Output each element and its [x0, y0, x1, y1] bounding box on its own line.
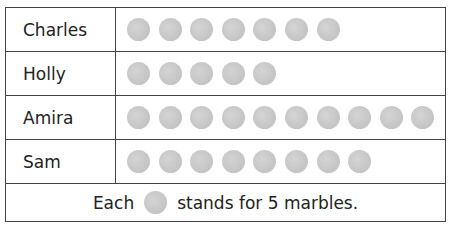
table-row: Amira — [6, 96, 445, 140]
table-row: Holly — [6, 52, 445, 96]
marble-icon — [317, 18, 340, 41]
table-row: Sam — [6, 140, 445, 184]
marble-icon — [285, 106, 308, 129]
marble-icon — [127, 62, 150, 85]
marble-icon — [159, 18, 182, 41]
row-label: Sam — [6, 140, 116, 183]
marble-icon — [317, 150, 340, 173]
marble-icon — [159, 150, 182, 173]
marble-icon — [222, 62, 245, 85]
key-suffix: stands for 5 marbles. — [177, 193, 358, 213]
marble-icon — [222, 150, 245, 173]
marble-icon — [380, 106, 403, 129]
key-row: Each stands for 5 marbles. — [6, 184, 445, 221]
symbol-cell — [116, 52, 445, 95]
marble-icon — [253, 106, 276, 129]
marble-icon — [285, 18, 308, 41]
marble-icon — [127, 18, 150, 41]
marble-icon — [285, 150, 308, 173]
marble-icon — [222, 106, 245, 129]
marble-icon — [159, 62, 182, 85]
symbol-cell — [116, 140, 445, 183]
marble-icon — [190, 18, 213, 41]
marble-icon — [222, 18, 245, 41]
marble-icon — [317, 106, 340, 129]
row-label: Amira — [6, 96, 116, 139]
marble-icon — [127, 150, 150, 173]
marble-icon — [411, 106, 434, 129]
marble-icon — [159, 106, 182, 129]
marble-icon — [144, 191, 167, 214]
table-row: Charles — [6, 8, 445, 52]
marble-icon — [348, 150, 371, 173]
pictograph-table: CharlesHollyAmiraSam Each stands for 5 m… — [5, 7, 446, 222]
marble-icon — [348, 106, 371, 129]
marble-icon — [190, 62, 213, 85]
row-label: Charles — [6, 8, 116, 51]
marble-icon — [190, 106, 213, 129]
marble-icon — [253, 150, 276, 173]
row-label: Holly — [6, 52, 116, 95]
marble-icon — [127, 106, 150, 129]
marble-icon — [253, 62, 276, 85]
key-prefix: Each — [93, 193, 134, 213]
symbol-cell — [116, 96, 445, 139]
marble-icon — [253, 18, 276, 41]
symbol-cell — [116, 8, 445, 51]
marble-icon — [190, 150, 213, 173]
